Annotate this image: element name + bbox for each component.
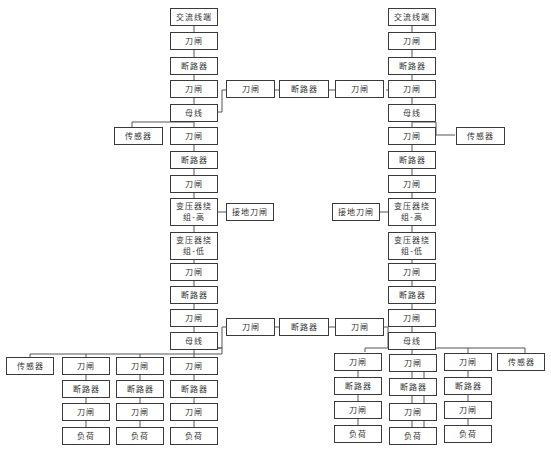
lower-tie-breaker: 断路器 bbox=[279, 318, 329, 336]
upper-tie-knife-switch-left: 刀闸 bbox=[226, 80, 275, 98]
right-upper-sensor: 传感器 bbox=[456, 127, 505, 145]
right-knife-switch-1: 刀闸 bbox=[388, 32, 436, 50]
right-breaker-2: 断路器 bbox=[388, 151, 436, 169]
right-feeder-2-breaker: 断路器 bbox=[389, 378, 437, 396]
left-feeder-1-breaker: 断路器 bbox=[62, 380, 110, 398]
left-busbar-upper: 母线 bbox=[170, 104, 218, 122]
right-busbar-lower: 母线 bbox=[388, 332, 436, 350]
right-knife-switch-5: 刀闸 bbox=[388, 263, 436, 281]
left-breaker-2: 断路器 bbox=[170, 151, 218, 169]
right-bottom-sensor: 传感器 bbox=[497, 353, 545, 371]
right-ground-switch: 接地刀闸 bbox=[332, 203, 380, 221]
left-breaker-3: 断路器 bbox=[170, 286, 218, 304]
left-feeder-3-knife-switch-2: 刀闸 bbox=[170, 403, 218, 421]
right-transformer-winding-high: 变压器绕 组-高 bbox=[388, 198, 436, 226]
right-feeder-2-knife-switch-1: 刀闸 bbox=[389, 354, 437, 372]
right-breaker-3: 断路器 bbox=[388, 286, 436, 304]
left-bottom-sensor: 传感器 bbox=[6, 357, 54, 375]
right-feeder-2-knife-switch-2: 刀闸 bbox=[389, 403, 437, 421]
right-feeder-1-breaker: 断路器 bbox=[334, 377, 382, 395]
right-feeder-1-knife-switch-2: 刀闸 bbox=[334, 401, 382, 419]
right-feeder-3-breaker: 断路器 bbox=[444, 377, 492, 395]
left-busbar-lower: 母线 bbox=[170, 332, 218, 350]
left-knife-switch-3: 刀闸 bbox=[170, 127, 218, 145]
right-breaker-1: 断路器 bbox=[388, 57, 436, 75]
lower-tie-knife-switch-left: 刀闸 bbox=[226, 318, 275, 336]
left-feeder-1-knife-switch-2: 刀闸 bbox=[62, 403, 110, 421]
left-feeder-3-breaker: 断路器 bbox=[170, 380, 218, 398]
left-ground-switch: 接地刀闸 bbox=[226, 203, 274, 221]
right-ac-line-terminal: 交流线端 bbox=[388, 8, 436, 26]
left-feeder-3-knife-switch-1: 刀闸 bbox=[170, 357, 218, 375]
left-breaker-1: 断路器 bbox=[170, 57, 218, 75]
right-feeder-1-knife-switch-1: 刀闸 bbox=[334, 353, 382, 371]
right-knife-switch-4: 刀闸 bbox=[388, 175, 436, 193]
left-feeder-2-load: 负荷 bbox=[116, 427, 164, 445]
left-transformer-winding-high: 变压器绕 组-高 bbox=[170, 198, 218, 226]
left-knife-switch-6: 刀闸 bbox=[170, 309, 218, 327]
upper-tie-breaker: 断路器 bbox=[279, 80, 329, 98]
left-knife-switch-5: 刀闸 bbox=[170, 263, 218, 281]
left-knife-switch-2: 刀闸 bbox=[170, 80, 218, 98]
left-upper-sensor: 传感器 bbox=[114, 127, 163, 145]
upper-tie-knife-switch-right: 刀闸 bbox=[335, 80, 384, 98]
right-knife-switch-2: 刀闸 bbox=[388, 80, 436, 98]
left-feeder-2-knife-switch-2: 刀闸 bbox=[116, 403, 164, 421]
right-feeder-3-knife-switch-2: 刀闸 bbox=[444, 401, 492, 419]
left-feeder-1-knife-switch-1: 刀闸 bbox=[62, 357, 110, 375]
lower-tie-knife-switch-right: 刀闸 bbox=[335, 318, 384, 336]
left-transformer-winding-low: 变压器绕 组-低 bbox=[170, 232, 218, 260]
right-feeder-3-knife-switch-1: 刀闸 bbox=[444, 353, 492, 371]
left-feeder-2-breaker: 断路器 bbox=[116, 380, 164, 398]
right-knife-switch-3: 刀闸 bbox=[388, 127, 436, 145]
left-feeder-1-load: 负荷 bbox=[62, 427, 110, 445]
left-knife-switch-1: 刀闸 bbox=[170, 32, 218, 50]
left-feeder-2-knife-switch-1: 刀闸 bbox=[116, 357, 164, 375]
right-feeder-1-load: 负荷 bbox=[334, 425, 382, 443]
left-knife-switch-4: 刀闸 bbox=[170, 175, 218, 193]
right-transformer-winding-low: 变压器绕 组-低 bbox=[388, 232, 436, 260]
substation-diagram: 交流线端 刀闸 断路器 刀闸 母线 刀闸 断路器 刀闸 变压器绕 组-高 变压器… bbox=[0, 0, 551, 454]
right-busbar-upper: 母线 bbox=[388, 104, 436, 122]
right-knife-switch-6: 刀闸 bbox=[388, 309, 436, 327]
right-feeder-2-load: 负荷 bbox=[389, 427, 437, 445]
left-ac-line-terminal: 交流线端 bbox=[170, 8, 218, 26]
right-feeder-3-load: 负荷 bbox=[444, 425, 492, 443]
left-feeder-3-load: 负荷 bbox=[170, 427, 218, 445]
